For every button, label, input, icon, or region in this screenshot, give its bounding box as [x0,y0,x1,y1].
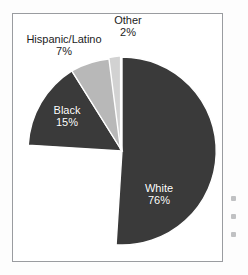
pie-label-other-value: 2% [104,26,152,38]
edge-artifact-mark [231,214,236,219]
edge-artifact-mark [231,196,236,201]
page-edge-artifact [231,196,245,258]
pie-slice-white [116,57,216,245]
pie-label-hispanic-latino: Hispanic/Latino 7% [16,33,112,58]
pie-chart-figure: White 76% Black 15% Hispanic/Latino 7% O… [0,0,248,275]
pie-label-hispanic-latino-name: Hispanic/Latino [16,33,112,45]
pie-label-other-name: Other [104,14,152,26]
edge-artifact-mark [231,232,236,237]
pie-label-black-value: 15% [42,116,92,128]
pie-label-black: Black 15% [42,104,92,129]
pie-label-white-value: 76% [132,194,186,206]
pie-label-other: Other 2% [104,14,152,39]
pie-label-black-name: Black [42,104,92,116]
pie-label-hispanic-latino-value: 7% [16,45,112,57]
pie-label-white: White 76% [132,182,186,207]
pie-label-white-name: White [132,182,186,194]
